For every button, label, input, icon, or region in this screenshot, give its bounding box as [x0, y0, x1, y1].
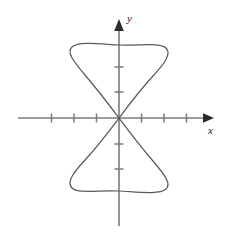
x-axis-arrowhead	[203, 113, 214, 123]
plot-canvas: y x	[0, 0, 231, 234]
y-axis-label: y	[126, 12, 132, 24]
y-axis-arrowhead	[114, 19, 124, 31]
x-axis-label: x	[207, 124, 213, 136]
figure-container: y x	[0, 0, 231, 234]
